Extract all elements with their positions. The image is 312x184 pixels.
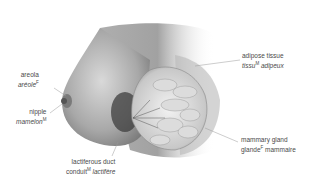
label-lactiferous-duct: lactiferous duct conduitM lactifère	[66, 158, 115, 176]
label-areola: areola aréoleF	[18, 71, 39, 89]
label-mammary-gland: mammary gland glandeF mammaire	[241, 136, 296, 154]
breast-illustration	[0, 0, 312, 184]
label-adipose-tissue: adipose tissue tissuM adipeux	[242, 52, 284, 70]
breast-anatomy-diagram: areola aréoleF nipple mamelonM lactifero…	[0, 0, 312, 184]
label-nipple: nipple mamelonM	[16, 108, 46, 126]
